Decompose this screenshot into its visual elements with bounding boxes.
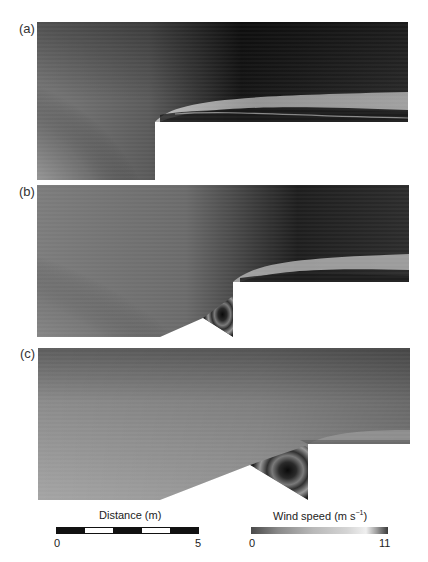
scale-bar-title: Distance (m): [99, 509, 161, 521]
scale-segment-2: [85, 528, 113, 533]
colorbar-title-close: ): [364, 510, 368, 522]
wind-speed-colorbar: [251, 527, 388, 534]
scale-segment-1: [57, 528, 85, 533]
distance-scale-bar: [56, 527, 199, 534]
scale-min-label: 0: [54, 537, 60, 549]
colorbar-min-label: 0: [249, 537, 255, 549]
scale-segment-3: [113, 528, 141, 533]
scale-max-label: 5: [195, 537, 201, 549]
colorbar-title: Wind speed (m s−1): [273, 509, 367, 522]
colorbar-title-exponent: −1: [356, 509, 364, 516]
colorbar-max-label: 11: [379, 537, 390, 549]
scale-segment-5: [170, 528, 198, 533]
wind-field-figure: [0, 0, 428, 562]
colorbar-title-text: Wind speed (m s: [273, 510, 356, 522]
scale-segment-4: [142, 528, 170, 533]
panel-c-field: [38, 348, 410, 500]
